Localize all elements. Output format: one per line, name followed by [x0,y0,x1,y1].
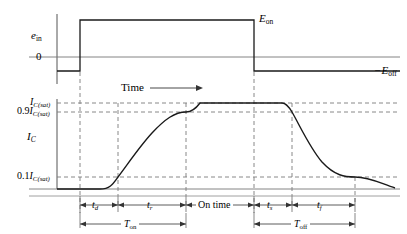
toff-right-arrow-icon [349,222,355,227]
total-label-ton: Ton [121,219,139,231]
on-time-right-arrow-icon [248,203,254,208]
total-label-toff: Toff [291,219,310,231]
ton-left-arrow-icon [80,222,86,227]
upper-zero-label: 0 [36,51,42,62]
on-time-left-arrow-icon [186,203,192,208]
e-off-label: −Eoff [374,65,397,78]
tr-right-arrow-icon [180,203,186,208]
switching-waveform-figure: ein 0 Eon −Eoff Time IC(sat) 0.9IC(sat) … [0,0,407,234]
tf-left-arrow-icon [292,203,298,208]
ts-right-arrow-icon [286,203,292,208]
interval-label-tr: tr [147,200,152,212]
interval-label-td: td [92,200,98,212]
time-label: Time [121,82,144,93]
interval-label-ts: ts [267,200,272,212]
upper-y-axis-label: ein [31,30,42,43]
tf-right-arrow-icon [349,203,355,208]
td-left-arrow-icon [80,203,86,208]
right-arrow-icon [196,85,203,91]
td-right-arrow-icon [112,203,118,208]
toff-left-arrow-icon [254,222,260,227]
tr-left-arrow-icon [118,203,124,208]
e-on-label: Eon [259,13,273,26]
collector-current-waveform [57,103,395,189]
lower-y-axis-label: IC [27,131,36,144]
ton-right-arrow-icon [180,222,186,227]
input-voltage-waveform [57,20,400,71]
interval-label-tf: tf [317,200,322,212]
tick-label-ic-90: 0.9IC(sat) [17,106,50,118]
ts-left-arrow-icon [254,203,260,208]
interval-label-on-time: On time [196,200,233,210]
tick-label-ic-10: 0.1IC(sat) [17,171,50,183]
